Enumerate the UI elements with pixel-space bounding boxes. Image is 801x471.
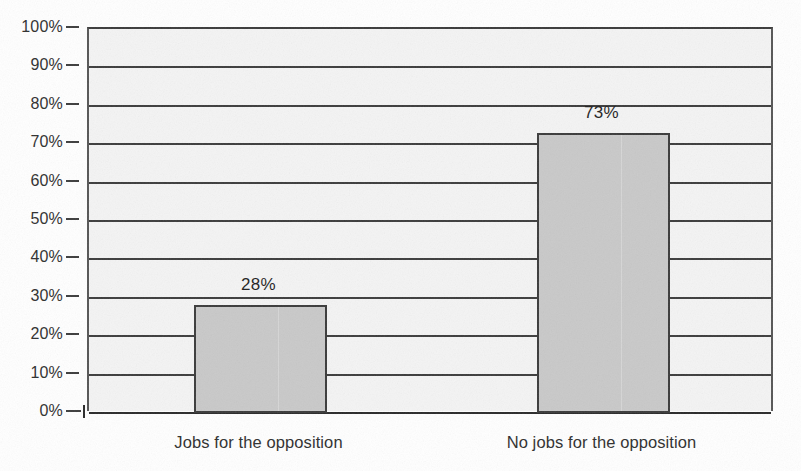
y-axis-tick-label: 30% bbox=[30, 287, 63, 305]
plot-area bbox=[87, 27, 773, 411]
y-axis-tick-label: 0% bbox=[39, 402, 63, 420]
y-axis-tick-mark bbox=[66, 410, 81, 412]
y-axis-tick-mark bbox=[66, 333, 79, 335]
bar bbox=[537, 133, 670, 413]
bar-value-label: 73% bbox=[584, 103, 619, 123]
y-axis-tick-mark bbox=[66, 180, 79, 182]
bar bbox=[194, 305, 327, 413]
bar-value-label: 28% bbox=[241, 275, 276, 295]
y-axis-tick-label: 80% bbox=[30, 95, 63, 113]
gridline bbox=[89, 105, 771, 107]
gridline bbox=[89, 66, 771, 68]
y-axis-tick-mark bbox=[66, 218, 79, 220]
y-axis-tick-label: 70% bbox=[30, 133, 63, 151]
bar-scan-seam bbox=[621, 135, 622, 411]
y-axis-zero-tick-nub bbox=[83, 405, 85, 418]
y-axis-tick-mark bbox=[66, 103, 79, 105]
y-axis-tick-label: 10% bbox=[30, 364, 63, 382]
y-axis-tick-label: 60% bbox=[30, 172, 63, 190]
y-axis-tick-mark bbox=[66, 26, 79, 28]
x-axis-category-label: Jobs for the opposition bbox=[174, 433, 342, 452]
y-axis-tick-label: 20% bbox=[30, 325, 63, 343]
y-axis-tick-label: 90% bbox=[30, 56, 63, 74]
y-axis-tick-mark bbox=[66, 372, 79, 374]
y-axis-tick-label: 40% bbox=[30, 248, 63, 266]
x-axis-category-label: No jobs for the opposition bbox=[507, 433, 697, 452]
y-axis-tick-mark bbox=[66, 295, 79, 297]
y-axis-tick-mark bbox=[66, 256, 79, 258]
y-axis: 0%10%20%30%40%50%60%70%80%90%100% bbox=[0, 0, 87, 471]
y-axis-tick-label: 100% bbox=[21, 18, 63, 36]
y-axis-tick-label: 50% bbox=[30, 210, 63, 228]
bar-scan-seam bbox=[278, 307, 279, 411]
y-axis-tick-mark bbox=[66, 141, 79, 143]
bar-chart-figure: 0%10%20%30%40%50%60%70%80%90%100% 28%Job… bbox=[0, 0, 801, 471]
y-axis-tick-mark bbox=[66, 64, 79, 66]
